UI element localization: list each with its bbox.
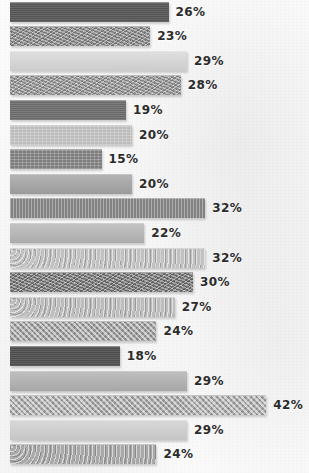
bar-row: 29% xyxy=(10,420,224,439)
bar-row: 24% xyxy=(10,322,193,341)
bar-row: 42% xyxy=(10,396,303,415)
bar-row: 18% xyxy=(10,346,157,365)
bar xyxy=(10,321,156,341)
bar xyxy=(10,198,205,218)
bar-row: 15% xyxy=(10,150,138,169)
bar xyxy=(10,248,205,268)
bar-row: 26% xyxy=(10,2,206,21)
bar xyxy=(10,272,193,292)
bar-value-label: 28% xyxy=(188,78,218,92)
bar xyxy=(10,100,126,120)
bar-value-label: 42% xyxy=(273,398,303,412)
bar-value-label: 24% xyxy=(163,447,193,461)
bar-value-label: 18% xyxy=(127,349,157,363)
bar-value-label: 29% xyxy=(194,374,224,388)
bar-row: 32% xyxy=(10,199,242,218)
bar-value-label: 22% xyxy=(151,226,181,240)
bar xyxy=(10,125,132,145)
bar-value-label: 29% xyxy=(194,423,224,437)
bar-value-label: 20% xyxy=(139,177,169,191)
bar-value-label: 30% xyxy=(200,275,230,289)
bar xyxy=(10,371,187,391)
bar-row: 29% xyxy=(10,51,224,70)
bar xyxy=(10,223,144,243)
bar-row: 23% xyxy=(10,27,187,46)
bar xyxy=(10,395,266,415)
bar-value-label: 20% xyxy=(139,128,169,142)
bar-row: 22% xyxy=(10,223,181,242)
bar-row: 32% xyxy=(10,248,242,267)
bar xyxy=(10,2,169,22)
bar-row: 19% xyxy=(10,100,163,119)
bar-value-label: 32% xyxy=(212,201,242,215)
bar-value-label: 27% xyxy=(182,300,212,314)
bar-row: 24% xyxy=(10,445,193,464)
bar xyxy=(10,420,187,440)
bar xyxy=(10,346,120,366)
bar-value-label: 32% xyxy=(212,251,242,265)
bar-value-label: 29% xyxy=(194,54,224,68)
bar xyxy=(10,75,181,95)
bar-row: 20% xyxy=(10,174,169,193)
bar xyxy=(10,297,175,317)
bar-row: 29% xyxy=(10,371,224,390)
bar xyxy=(10,444,156,464)
bar-chart: 26%23%29%28%19%20%15%20%32%22%32%30%27%2… xyxy=(0,0,309,473)
bar-row: 27% xyxy=(10,297,212,316)
bar xyxy=(10,149,102,169)
bar-row: 20% xyxy=(10,125,169,144)
bar-value-label: 26% xyxy=(176,5,206,19)
bar xyxy=(10,26,150,46)
bar xyxy=(10,174,132,194)
bar-row: 30% xyxy=(10,273,230,292)
bar xyxy=(10,51,187,71)
bar-value-label: 15% xyxy=(109,152,139,166)
bar-row: 28% xyxy=(10,76,218,95)
bar-value-label: 24% xyxy=(163,324,193,338)
bar-value-label: 23% xyxy=(157,29,187,43)
bar-value-label: 19% xyxy=(133,103,163,117)
